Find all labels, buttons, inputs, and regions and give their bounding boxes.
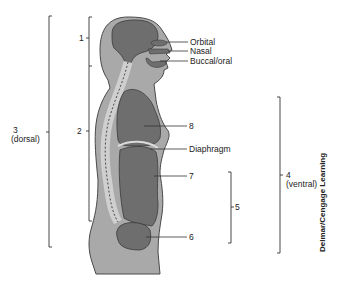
bracket-3-dorsal	[49, 16, 52, 247]
label-diaphragm: Diaphragm	[189, 145, 231, 154]
credit-text: Delmar/Cengage Learning	[318, 153, 327, 252]
bracket-4-ventral	[277, 97, 280, 253]
label-7: 7	[189, 172, 194, 181]
label-buccal-oral: Buccal/oral	[190, 57, 232, 66]
label-5: 5	[235, 203, 240, 212]
nasal-cavity	[148, 49, 170, 54]
body-cavities-diagram	[0, 0, 337, 289]
label-2: 2	[77, 127, 82, 136]
label-1: 1	[79, 34, 84, 43]
label-nasal: Nasal	[190, 47, 212, 56]
orbital-cavity	[151, 40, 167, 46]
bracket-1-2	[89, 17, 92, 221]
label-dorsal: (dorsal)	[11, 135, 40, 144]
bracket-5	[228, 172, 231, 243]
label-ventral: (ventral)	[286, 180, 317, 189]
pelvic-cavity	[117, 223, 151, 250]
label-6: 6	[189, 233, 194, 242]
abdominal-cavity	[119, 146, 158, 226]
label-8: 8	[189, 122, 194, 131]
